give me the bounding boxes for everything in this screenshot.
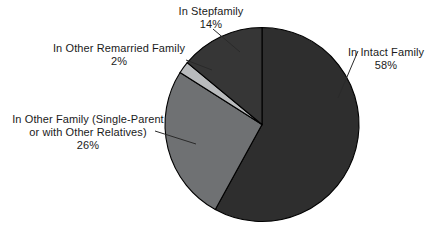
slice-label-intact-family: In Intact Family 58% <box>340 46 432 72</box>
slice-label-stepfamily-percent: 14% <box>152 18 270 31</box>
slice-label-other-family-percent: 26% <box>2 139 174 152</box>
slice-label-other-family: In Other Family (Single-Parent or with O… <box>2 113 174 152</box>
pie-chart: In Stepfamily 14% In Other Remarried Fam… <box>0 0 434 239</box>
slice-label-intact-family-text: In Intact Family <box>340 46 432 59</box>
slice-label-other-remarried-family-text: In Other Remarried Family <box>36 42 202 55</box>
slice-label-stepfamily: In Stepfamily 14% <box>152 5 270 31</box>
slice-label-other-family-text-line1: In Other Family (Single-Parent <box>2 113 174 126</box>
slice-label-stepfamily-text: In Stepfamily <box>152 5 270 18</box>
slice-label-other-family-text-line2: or with Other Relatives) <box>2 126 174 139</box>
slice-label-intact-family-percent: 58% <box>340 59 432 72</box>
slice-label-other-remarried-family: In Other Remarried Family 2% <box>36 42 202 68</box>
slice-label-other-remarried-family-percent: 2% <box>36 55 202 68</box>
